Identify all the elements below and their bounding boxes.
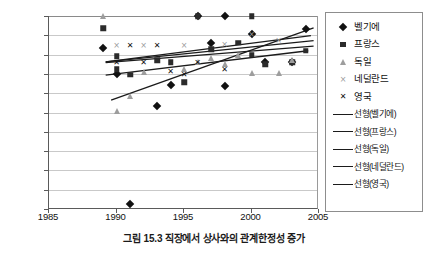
chart-legend: 벨기에프랑스독일×네덜란드✕영국선형(벨기에)선형(프랑스)선형(독일)선형(네…	[325, 12, 423, 212]
data-point	[235, 40, 241, 46]
data-point	[114, 108, 120, 114]
legend-item: 선형(영국)	[326, 176, 422, 194]
data-point	[276, 70, 282, 76]
line-icon	[332, 161, 354, 173]
data-point	[262, 62, 268, 68]
data-point: ✕	[154, 42, 161, 50]
legend-item-label: 선형(독일)	[354, 144, 389, 154]
legend-item: ✕영국	[326, 88, 422, 106]
data-point: ✕	[167, 68, 174, 76]
x-tick-mark	[183, 209, 184, 213]
legend-item-label: 선형(프랑스)	[354, 127, 396, 137]
data-point	[100, 13, 106, 19]
data-point	[127, 93, 133, 99]
line-icon	[332, 126, 354, 138]
data-point	[208, 55, 214, 61]
symbol-glyph	[333, 149, 353, 150]
data-point: ×	[140, 42, 147, 50]
data-point	[141, 69, 147, 75]
x-tick-label: 1985	[30, 212, 66, 222]
data-point	[303, 48, 309, 54]
line-icon	[332, 178, 354, 190]
data-point	[208, 46, 214, 52]
line-icon	[332, 108, 354, 120]
symbol-glyph	[333, 184, 353, 185]
data-point	[127, 72, 133, 78]
square-icon	[332, 38, 354, 50]
x-tick-mark	[318, 209, 319, 213]
legend-item: 벨기에	[326, 18, 422, 36]
data-point	[114, 67, 120, 73]
legend-item-label: 프랑스	[354, 39, 380, 49]
plot-area: ××××××✕✕✕✕✕✕✕✕	[48, 16, 318, 209]
legend-item: ×네덜란드	[326, 71, 422, 89]
triangle-icon	[332, 56, 354, 68]
legend-item-label: 선형(영국)	[354, 179, 389, 189]
line-icon	[332, 143, 354, 155]
data-point	[249, 70, 255, 76]
x-tick-mark	[116, 209, 117, 213]
symbol-glyph	[340, 42, 346, 48]
symbol-glyph	[333, 131, 353, 132]
symbol-glyph	[339, 23, 347, 31]
figure-root: 50556065707580859095100 1985199019952000…	[0, 0, 428, 253]
legend-item: 선형(네덜란드)	[326, 158, 422, 176]
data-point: ✕	[127, 42, 134, 50]
legend-item: 선형(벨기에)	[326, 106, 422, 124]
data-point	[289, 57, 295, 63]
data-point	[195, 13, 201, 19]
x-tick-label: 1995	[165, 212, 201, 222]
x-tick-label: 1990	[98, 212, 134, 222]
data-point: ×	[181, 42, 188, 50]
data-point: ×	[248, 31, 255, 39]
x-icon: ✕	[332, 91, 354, 103]
data-point: ✕	[194, 59, 201, 67]
data-point	[249, 13, 255, 19]
legend-item: 프랑스	[326, 36, 422, 54]
figure-caption: 그림 15.3 직장에서 상사와의 관계한정성 증가	[0, 233, 428, 245]
x-tick-label: 2000	[233, 212, 269, 222]
legend-item-label: 선형(네덜란드)	[354, 162, 404, 172]
data-point	[235, 52, 241, 58]
data-point	[100, 26, 106, 32]
symbol-glyph	[333, 166, 353, 167]
data-point: ✕	[140, 59, 147, 67]
legend-item-label: 영국	[354, 92, 371, 102]
data-point	[168, 60, 174, 66]
data-point: ✕	[181, 71, 188, 79]
legend-item: 독일	[326, 53, 422, 71]
data-point	[181, 79, 187, 85]
x-tick-label: 2005	[300, 212, 336, 222]
data-point: ×	[113, 42, 120, 50]
symbol-glyph	[333, 114, 353, 115]
data-point: ×	[275, 37, 282, 45]
symbol-glyph	[340, 59, 346, 65]
diamond-icon	[332, 21, 354, 33]
x-tick-mark	[48, 209, 49, 213]
legend-item-label: 독일	[354, 57, 371, 67]
symbol-glyph: ✕	[340, 92, 347, 101]
data-point	[154, 58, 160, 64]
legend-item-label: 선형(벨기에)	[354, 109, 396, 119]
legend-item-label: 벨기에	[354, 22, 380, 32]
cross-icon: ×	[332, 73, 354, 85]
data-point: ✕	[221, 66, 228, 74]
legend-item-label: 네덜란드	[354, 74, 389, 84]
legend-item: 선형(프랑스)	[326, 123, 422, 141]
data-point: ×	[221, 41, 228, 49]
legend-item: 선형(독일)	[326, 141, 422, 159]
data-point	[249, 52, 255, 58]
data-point: ✕	[113, 59, 120, 67]
symbol-glyph: ×	[340, 75, 347, 84]
x-tick-mark	[251, 209, 252, 213]
